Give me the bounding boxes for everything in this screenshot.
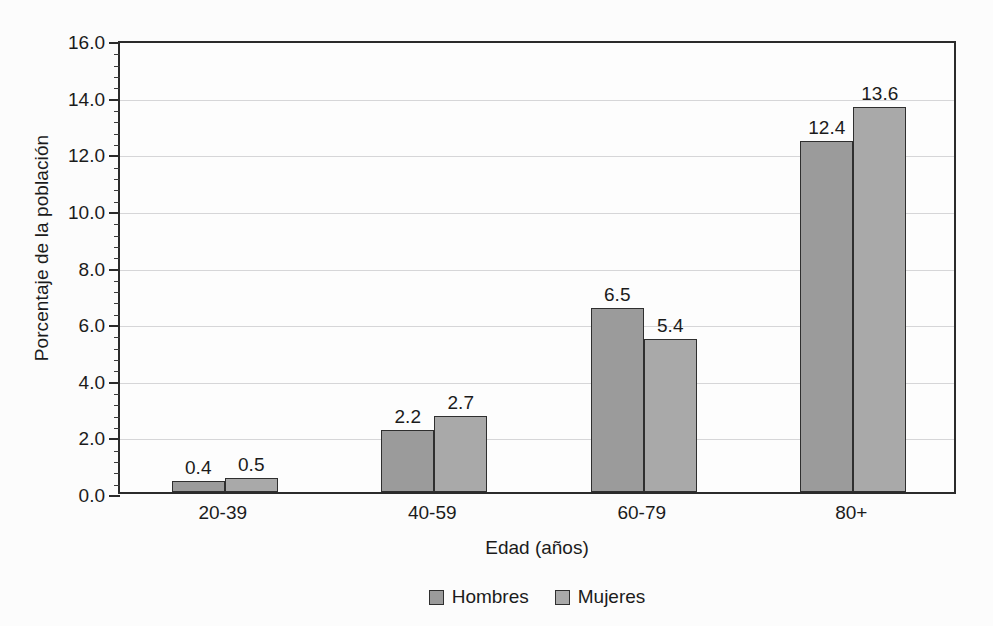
chart-legend: HombresMujeres	[118, 586, 956, 608]
bar-hombres-80+	[800, 141, 853, 492]
y-tick-minor	[114, 417, 120, 418]
y-tick-minor	[114, 247, 120, 248]
x-tick-label-80+: 80+	[835, 502, 867, 524]
x-tick-label-40-59: 40-59	[408, 502, 457, 524]
y-tick-minor	[114, 54, 120, 55]
y-tick-minor	[114, 462, 120, 463]
y-tick-minor	[114, 292, 120, 293]
y-tick-minor	[114, 111, 120, 112]
bar-value-label: 2.2	[395, 406, 421, 428]
bar-hombres-20-39	[172, 481, 225, 492]
legend-swatch-icon	[429, 590, 444, 605]
y-tick-major	[109, 155, 120, 157]
y-tick-minor	[114, 315, 120, 316]
y-tick-label: 16.0	[68, 32, 105, 54]
y-tick-label: 0.0	[79, 485, 105, 507]
y-tick-minor	[114, 88, 120, 89]
y-tick-label: 4.0	[79, 372, 105, 394]
bar-chart-figure: Porcentaje de la población 0.02.04.06.08…	[0, 0, 993, 626]
y-tick-minor	[114, 258, 120, 259]
y-tick-minor	[114, 168, 120, 169]
x-tick-label-20-39: 20-39	[198, 502, 247, 524]
y-tick-label: 2.0	[79, 428, 105, 450]
y-tick-minor	[114, 190, 120, 191]
y-tick-minor	[114, 394, 120, 395]
bar-mujeres-60-79	[644, 339, 697, 492]
y-tick-major	[109, 325, 120, 327]
y-tick-label: 14.0	[68, 89, 105, 111]
y-tick-minor	[114, 236, 120, 237]
y-tick-minor	[114, 371, 120, 372]
y-tick-major	[109, 99, 120, 101]
y-tick-minor	[114, 428, 120, 429]
bar-value-label: 5.4	[657, 315, 683, 337]
bar-mujeres-20-39	[225, 478, 278, 492]
bar-mujeres-40-59	[434, 416, 487, 492]
legend-entry-hombres[interactable]: Hombres	[429, 586, 529, 608]
y-tick-label: 6.0	[79, 315, 105, 337]
bar-hombres-60-79	[591, 308, 644, 492]
y-tick-minor	[114, 179, 120, 180]
y-tick-minor	[114, 485, 120, 486]
y-tick-minor	[114, 122, 120, 123]
y-tick-minor	[114, 451, 120, 452]
bar-hombres-40-59	[381, 430, 434, 492]
y-tick-minor	[114, 224, 120, 225]
y-tick-minor	[114, 405, 120, 406]
y-tick-minor	[114, 134, 120, 135]
bar-value-label: 0.4	[185, 457, 211, 479]
y-tick-minor	[114, 145, 120, 146]
y-tick-major	[109, 269, 120, 271]
plot-area: 0.02.04.06.08.010.012.014.016.0 0.40.52.…	[118, 41, 956, 494]
bar-value-label: 12.4	[808, 117, 845, 139]
y-tick-minor	[114, 202, 120, 203]
y-tick-label: 12.0	[68, 145, 105, 167]
y-tick-major	[109, 382, 120, 384]
y-tick-label: 8.0	[79, 259, 105, 281]
y-tick-minor	[114, 281, 120, 282]
y-tick-major	[109, 438, 120, 440]
y-tick-minor	[114, 66, 120, 67]
y-tick-minor	[114, 473, 120, 474]
legend-swatch-icon	[555, 590, 570, 605]
bar-mujeres-80+	[853, 107, 906, 492]
y-tick-minor	[114, 349, 120, 350]
y-tick-minor	[114, 337, 120, 338]
legend-label: Mujeres	[578, 586, 646, 608]
y-tick-minor	[114, 77, 120, 78]
y-tick-minor	[114, 360, 120, 361]
y-tick-minor	[114, 303, 120, 304]
y-tick-major	[109, 42, 120, 44]
legend-entry-mujeres[interactable]: Mujeres	[555, 586, 646, 608]
legend-label: Hombres	[452, 586, 529, 608]
bar-value-label: 0.5	[238, 454, 264, 476]
bar-value-label: 2.7	[448, 392, 474, 414]
y-tick-major	[109, 212, 120, 214]
bar-value-label: 6.5	[604, 284, 630, 306]
bar-value-label: 13.6	[861, 83, 898, 105]
x-tick-label-60-79: 60-79	[617, 502, 666, 524]
y-tick-major	[109, 495, 120, 497]
y-tick-label: 10.0	[68, 202, 105, 224]
y-axis-title: Porcentaje de la población	[22, 0, 62, 508]
x-axis-title: Edad (años)	[118, 537, 956, 559]
gridline	[120, 100, 954, 101]
